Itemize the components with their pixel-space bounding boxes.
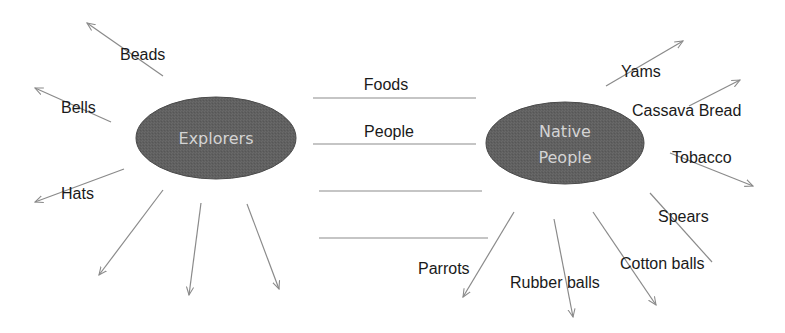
item-cotton-balls: Cotton balls bbox=[620, 255, 705, 272]
explorers-label: Explorers bbox=[179, 129, 254, 148]
item-parrots: Parrots bbox=[418, 260, 470, 277]
native-people-label-line2: People bbox=[538, 148, 591, 167]
item-beads: Beads bbox=[120, 46, 165, 63]
exchange-label-foods: Foods bbox=[364, 76, 408, 93]
item-spears: Spears bbox=[658, 208, 709, 225]
arrow-blank-3 bbox=[247, 204, 279, 289]
line-spears bbox=[650, 193, 712, 262]
native-people-label-line1: Native bbox=[539, 122, 591, 141]
center-exchange: Foods People bbox=[313, 76, 488, 238]
native-people-node: Native People bbox=[486, 102, 644, 184]
exchange-diagram: Explorers Native People Foods People Bea… bbox=[0, 0, 785, 333]
item-yams: Yams bbox=[621, 63, 661, 80]
explorers-node: Explorers bbox=[136, 97, 296, 179]
item-bells: Bells bbox=[61, 99, 96, 116]
arrow-blank-1 bbox=[99, 190, 163, 275]
item-hats: Hats bbox=[61, 185, 94, 202]
arrow-rubber-balls bbox=[554, 219, 573, 317]
arrow-blank-2 bbox=[189, 203, 201, 295]
item-cassava-bread: Cassava Bread bbox=[632, 102, 741, 119]
item-rubber-balls: Rubber balls bbox=[510, 274, 600, 291]
item-tobacco: Tobacco bbox=[672, 149, 732, 166]
arrow-parrots bbox=[463, 212, 514, 297]
exchange-label-people: People bbox=[364, 123, 414, 140]
